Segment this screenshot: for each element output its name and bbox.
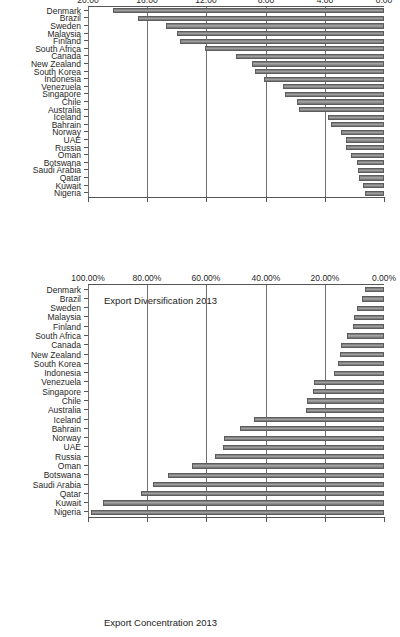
chart-export-concentration: Export Concentration 2013 0.00%20.00%40.… (0, 318, 400, 637)
bar (138, 16, 384, 21)
bar (363, 183, 384, 188)
category-axis-tick (84, 109, 88, 110)
category-label: Oman (58, 461, 81, 471)
chart-title-concentration: Export Concentration 2013 (104, 617, 217, 628)
category-label: Brazil (60, 294, 81, 304)
category-label: New Zealand (31, 350, 81, 360)
bar (91, 510, 384, 515)
category-label: Indonesia (44, 368, 81, 378)
y-axis-tick-label: 12.00 (196, 0, 217, 5)
bar (177, 31, 384, 36)
bar (240, 426, 384, 431)
bar (297, 99, 384, 104)
bar (331, 122, 384, 127)
category-axis-tick (84, 372, 88, 373)
category-axis-tick (84, 326, 88, 327)
category-axis-line (88, 284, 384, 285)
category-axis-tick (84, 162, 88, 163)
category-axis-tick (84, 55, 88, 56)
bar (192, 463, 384, 468)
bar (254, 417, 384, 422)
category-axis-tick (84, 344, 88, 345)
category-axis-tick (84, 400, 88, 401)
category-axis-tick (84, 484, 88, 485)
category-axis-tick (84, 456, 88, 457)
y-axis-tick-label: 100.00% (71, 273, 105, 283)
gridline (147, 285, 148, 517)
category-axis-tick (84, 307, 88, 308)
category-label: Sweden (50, 303, 81, 313)
category-axis-tick (84, 78, 88, 79)
bar (236, 54, 384, 59)
category-label: UAE (64, 442, 81, 452)
bar (168, 473, 384, 478)
category-label: Singapore (42, 387, 81, 397)
y-axis-tick-label: 80.00% (133, 273, 162, 283)
category-axis-tick (84, 511, 88, 512)
bar (224, 436, 384, 441)
figure-canvas: Export Diversification 2013 0.004.008.00… (0, 0, 400, 637)
category-axis-tick (84, 289, 88, 290)
bar (341, 343, 384, 348)
category-axis-tick (84, 177, 88, 178)
bar (351, 153, 384, 158)
bar (153, 482, 384, 487)
category-label: Norway (52, 433, 81, 443)
category-label: Denmark (47, 6, 81, 16)
y-axis-tick-label: 20.00 (77, 0, 98, 5)
category-label: Chile (62, 396, 81, 406)
gridline (88, 285, 89, 517)
category-label: Malaysia (47, 312, 81, 322)
bar (103, 501, 384, 506)
category-axis-tick (84, 465, 88, 466)
bar (113, 8, 384, 13)
category-label: Australia (48, 405, 81, 415)
category-axis-tick (84, 63, 88, 64)
chart-area-concentration: Export Concentration 2013 0.00%20.00%40.… (0, 318, 392, 623)
category-axis-tick (84, 409, 88, 410)
y-axis-tick-label: 20.00% (310, 273, 339, 283)
y-axis-tick-label: 0.00% (372, 273, 396, 283)
bar (306, 408, 384, 413)
bar (223, 445, 384, 450)
category-axis-tick (84, 493, 88, 494)
category-axis-tick (84, 185, 88, 186)
bar (307, 398, 384, 403)
category-axis-tick (84, 335, 88, 336)
bar (141, 491, 384, 496)
category-axis-tick (84, 354, 88, 355)
category-axis-tick (84, 316, 88, 317)
category-axis-tick (84, 10, 88, 11)
category-axis-tick (84, 169, 88, 170)
bar (346, 137, 384, 142)
bar (255, 69, 384, 74)
category-label: Russia (55, 452, 81, 462)
category-axis-tick (84, 116, 88, 117)
category-label: Saudi Arabia (33, 480, 81, 490)
category-axis-tick (84, 154, 88, 155)
bar (347, 333, 384, 338)
bar (354, 315, 384, 320)
chart-area-diversification: Export Diversification 2013 0.004.008.00… (0, 0, 392, 305)
bar (338, 361, 384, 366)
bar (283, 84, 384, 89)
category-axis-tick (84, 474, 88, 475)
bar (346, 145, 384, 150)
category-axis-tick (84, 101, 88, 102)
category-axis-tick (84, 192, 88, 193)
category-label: South Korea (34, 359, 81, 369)
bar (264, 77, 384, 82)
category-label: Qatar (60, 489, 81, 499)
bar (205, 46, 384, 51)
bar (340, 352, 384, 357)
category-label: Finland (53, 322, 81, 332)
category-axis-line (88, 6, 384, 7)
category-axis-tick (84, 33, 88, 34)
category-axis-tick (84, 48, 88, 49)
category-axis-tick (84, 71, 88, 72)
category-axis-tick (84, 93, 88, 94)
category-axis-tick (84, 419, 88, 420)
plot-area-diversification (88, 7, 384, 197)
category-label: Bahrain (52, 424, 81, 434)
bar (365, 287, 384, 292)
